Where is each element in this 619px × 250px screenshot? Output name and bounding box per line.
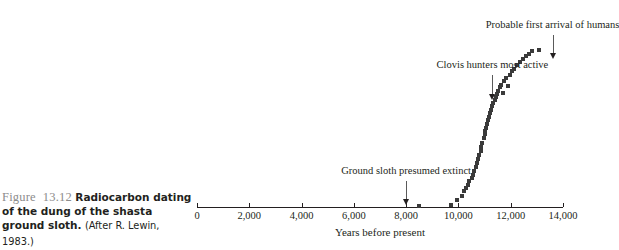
x-axis-line — [197, 207, 563, 208]
data-point — [483, 132, 487, 136]
data-point — [485, 122, 489, 126]
data-point — [476, 157, 480, 161]
x-axis-tick — [197, 203, 198, 207]
data-point — [449, 203, 453, 207]
x-axis-tick-label: 8,000 — [394, 210, 418, 221]
x-axis-tick — [458, 203, 459, 207]
data-point — [489, 108, 493, 112]
data-point — [487, 115, 491, 119]
data-point — [466, 183, 470, 187]
data-point — [482, 136, 486, 140]
arrow-shaft — [553, 35, 554, 54]
data-point — [508, 73, 512, 77]
arrow-head-icon — [489, 94, 495, 100]
data-point — [530, 49, 534, 53]
data-point — [496, 89, 500, 93]
data-point — [460, 194, 464, 198]
data-point — [506, 84, 510, 88]
data-point — [499, 83, 503, 87]
data-point — [486, 118, 490, 122]
data-point — [501, 91, 505, 95]
data-point — [479, 145, 483, 149]
x-axis-tick-label: 12,000 — [496, 210, 525, 221]
data-point — [480, 141, 484, 145]
arrow-shaft — [406, 181, 407, 199]
data-point — [471, 173, 475, 177]
data-point — [467, 179, 471, 183]
x-axis-tick-label: 2,000 — [237, 210, 261, 221]
data-point — [477, 153, 481, 157]
x-axis-tick-label: 14,000 — [549, 210, 578, 221]
x-axis-tick-label: 10,000 — [444, 210, 473, 221]
x-axis-tick — [511, 203, 512, 207]
data-point — [464, 186, 468, 190]
x-axis-tick — [563, 203, 564, 207]
arrow-head-icon — [403, 199, 409, 205]
annotation-label-clovis-hunters: Clovis hunters most active — [437, 59, 549, 70]
arrow-head-icon — [550, 53, 556, 59]
x-axis-tick — [302, 203, 303, 207]
annotation-label-first-arrival-humans: Probable first arrival of humans — [486, 19, 619, 30]
x-axis-tick-label: 6,000 — [342, 210, 366, 221]
arrow-shaft — [492, 75, 493, 94]
data-point — [490, 104, 494, 108]
data-point — [474, 165, 478, 169]
data-point — [484, 126, 488, 130]
data-point — [472, 169, 476, 173]
x-axis-tick — [354, 203, 355, 207]
data-point — [479, 149, 483, 153]
x-axis-tick-label: 0 — [194, 210, 199, 221]
x-axis-title: Years before present — [335, 226, 425, 238]
data-point — [488, 111, 492, 115]
data-point — [504, 76, 508, 80]
data-point — [475, 161, 479, 165]
data-point — [537, 48, 541, 52]
data-point — [455, 198, 459, 202]
x-axis-tick-label: 4,000 — [290, 210, 314, 221]
annotation-label-ground-sloth-extinct: Ground sloth presumed extinct — [341, 165, 471, 176]
data-point — [417, 204, 421, 208]
x-axis-tick — [249, 203, 250, 207]
